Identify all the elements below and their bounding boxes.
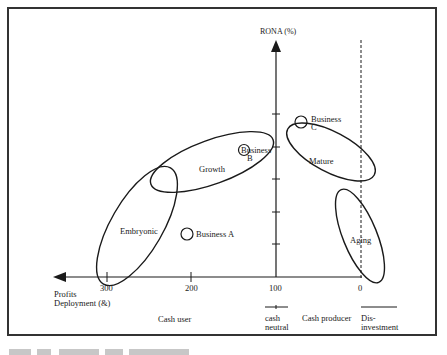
zone-disinvestment-line2: investment	[361, 323, 398, 332]
x-tick-label-200: 200	[185, 284, 198, 293]
x-tick-label-300: 300	[100, 284, 113, 293]
stage-label-growth: Growth	[199, 165, 225, 174]
figure-caption-cropped	[7, 339, 257, 355]
business-c-marker	[295, 116, 307, 128]
zone-cash-producer: Cash producer	[302, 314, 351, 323]
zone-cash-neutral-line2: neutral	[265, 323, 289, 332]
stage-label-aging: Aging	[350, 236, 371, 245]
business-c-label-line2: C	[311, 123, 317, 132]
business-b-label-line1: Business	[241, 146, 271, 155]
stage-label-embryonic: Embryonic	[120, 227, 158, 236]
growth-ellipse	[143, 119, 280, 205]
caption-fragment	[7, 339, 257, 355]
business-b-label-line2: B	[247, 154, 253, 163]
x-axis-label-line2: Deployment (&)	[54, 299, 110, 308]
y-axis-arrow-icon	[271, 40, 281, 52]
x-tick-label-0: 0	[358, 284, 362, 293]
business-a-marker	[181, 228, 193, 240]
zone-cash-user: Cash user	[158, 315, 191, 324]
y-axis-label: RONA (%)	[260, 27, 296, 36]
stage-label-mature: Mature	[309, 157, 334, 166]
business-a-label: Business A	[196, 230, 234, 239]
x-tick-label-100: 100	[269, 284, 282, 293]
x-axis-arrow-icon	[53, 272, 66, 282]
